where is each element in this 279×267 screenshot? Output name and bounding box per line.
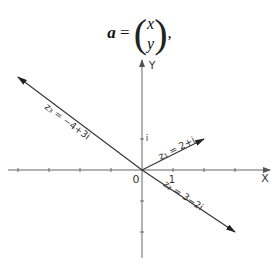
y-unit-label: i (146, 133, 149, 143)
x-axis-label: X (261, 172, 269, 185)
vectors: z₁ = 2+iz₂ = 3−2iz₃ = −4+3i (18, 77, 235, 232)
complex-plane-diagram: a = (xy) , z₁ = 2+iz₂ = 3−2iz₃ = −4+3i X… (0, 0, 279, 267)
x-unit-label: 1 (169, 174, 175, 185)
plot-area: z₁ = 2+iz₂ = 3−2iz₃ = −4+3i XY01i (0, 0, 279, 267)
origin-label: 0 (133, 173, 140, 186)
axes (8, 60, 270, 258)
vector-label-z1: z₁ = 2+i (156, 134, 196, 162)
vector-label-z3: z₃ = −4+3i (43, 101, 92, 142)
axis-labels: XY01i (133, 59, 270, 186)
y-axis-label: Y (148, 59, 156, 72)
